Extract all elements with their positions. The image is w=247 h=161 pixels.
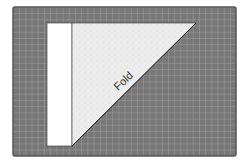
paper-strip <box>47 23 72 146</box>
cutting-mat-diagram: Fold <box>0 0 247 161</box>
